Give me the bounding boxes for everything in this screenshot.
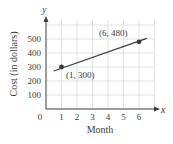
x-tick-label: 6 — [137, 112, 142, 122]
x-tick-label: 1 — [59, 112, 64, 122]
origin-label: 0 — [38, 112, 43, 122]
y-tick-label: 400 — [28, 48, 42, 58]
x-tick-label: 4 — [106, 112, 111, 122]
cost-vs-month-chart: y x 500 400 300 200 100 0 1 2 3 4 5 6 Mo… — [0, 0, 173, 144]
y-tick-label: 200 — [28, 76, 42, 86]
x-tick-label: 3 — [90, 112, 95, 122]
x-tick-label: 2 — [75, 112, 80, 122]
y-tick-labels: 500 400 300 200 100 — [28, 34, 42, 100]
x-axis-letter: x — [160, 104, 166, 115]
x-tick-label: 5 — [121, 112, 126, 122]
annotation-point-1: (1, 300) — [66, 70, 95, 80]
y-axis-letter: y — [41, 4, 47, 15]
data-point-6-480 — [137, 39, 142, 44]
y-axis-arrow-icon — [44, 16, 49, 22]
x-tick-labels: 0 1 2 3 4 5 6 — [38, 112, 142, 122]
y-tick-label: 100 — [28, 90, 42, 100]
y-tick-label: 300 — [28, 62, 42, 72]
y-tick-label: 500 — [28, 34, 42, 44]
x-axis-title: Month — [87, 124, 114, 135]
data-point-1-300 — [59, 65, 64, 70]
y-axis-title: Cost (in dollars) — [8, 32, 20, 97]
x-axis-arrow-icon — [154, 107, 160, 112]
annotation-point-2: (6, 480) — [99, 28, 128, 38]
cost-line — [54, 38, 147, 71]
